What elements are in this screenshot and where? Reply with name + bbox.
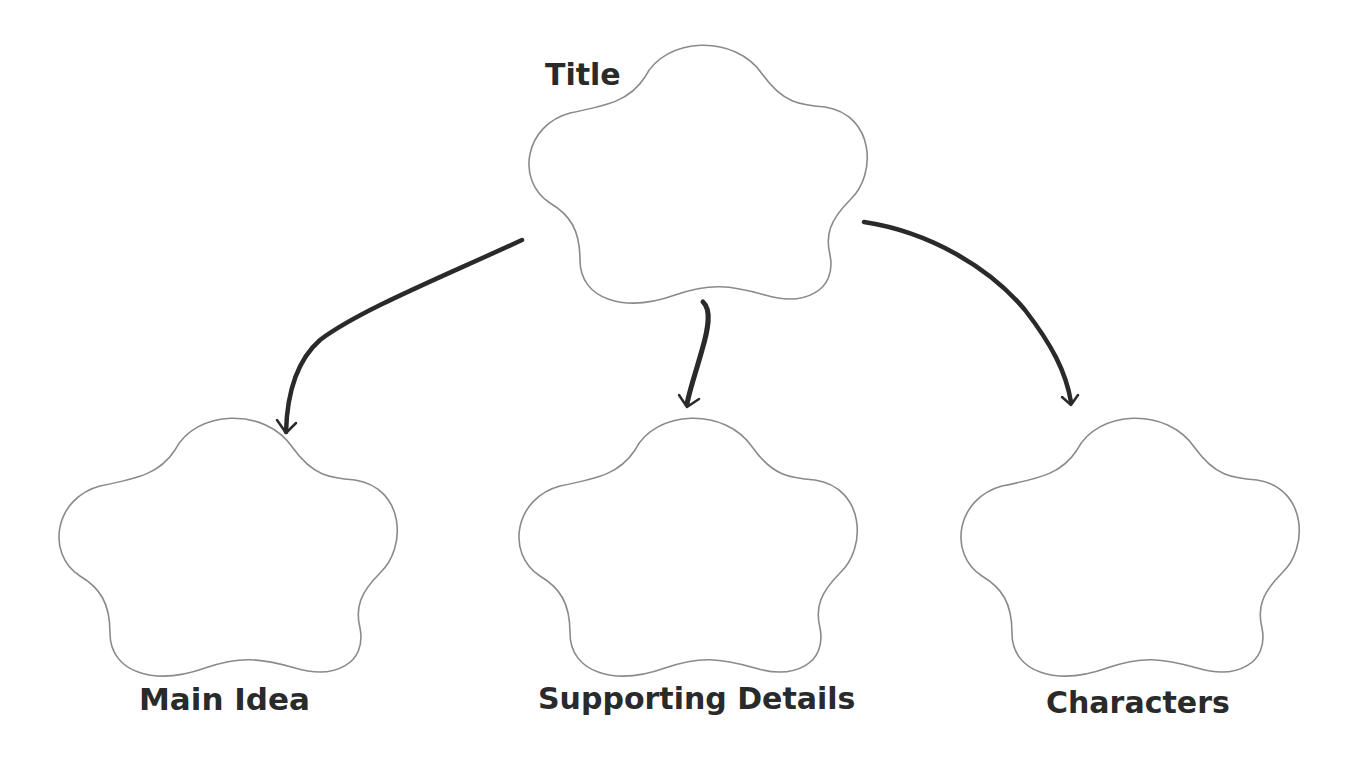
flower-node-characters[interactable] bbox=[961, 418, 1299, 676]
arrow-title-to-main-idea bbox=[277, 240, 522, 433]
flower-node-supporting-details[interactable] bbox=[519, 418, 857, 676]
arrow-title-to-supporting-details bbox=[679, 302, 708, 407]
node-label-title: Title bbox=[545, 60, 621, 90]
node-label-main-idea: Main Idea bbox=[139, 684, 310, 715]
node-label-supporting-details: Supporting Details bbox=[538, 684, 855, 714]
node-label-characters: Characters bbox=[1046, 688, 1230, 718]
flower-node-main-idea[interactable] bbox=[59, 418, 397, 676]
arrow-title-to-characters bbox=[864, 222, 1078, 405]
graphic-organizer-canvas bbox=[0, 0, 1351, 766]
